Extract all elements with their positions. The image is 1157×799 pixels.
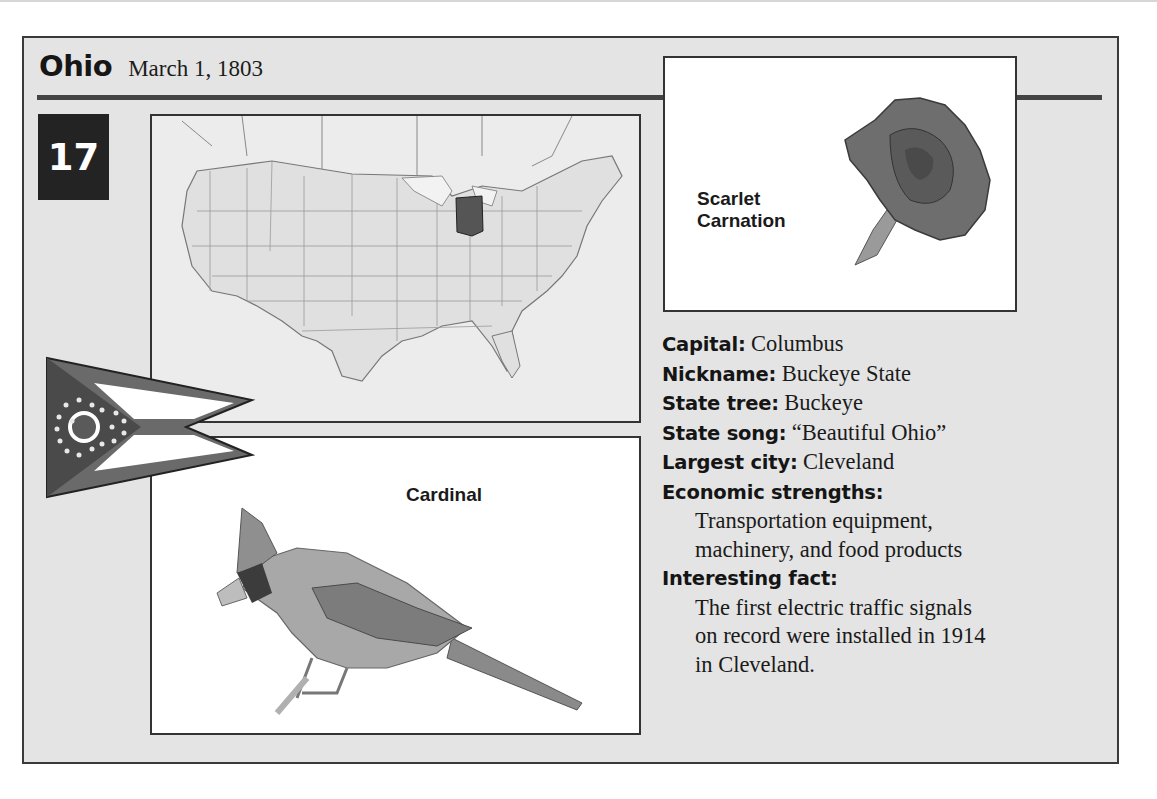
interesting-fact-line: on record were installed in 1914	[662, 622, 1102, 651]
state-flower-panel: Scarlet Carnation	[663, 56, 1017, 312]
fact-capital: Capital: Columbus	[662, 330, 1102, 360]
card-header: Ohio March 1, 1803	[39, 49, 263, 83]
fact-nickname: Nickname: Buckeye State	[662, 360, 1102, 390]
state-flower-caption: Scarlet Carnation	[697, 188, 786, 232]
interesting-fact-line: in Cleveland.	[662, 651, 1102, 680]
state-flag	[44, 355, 259, 500]
carnation-illustration	[815, 80, 1025, 280]
cardinal-illustration	[207, 498, 597, 718]
economic-strengths-line: machinery, and food products	[662, 536, 1102, 565]
ohio-burgee-flag-icon	[44, 355, 259, 500]
economic-strengths-line: Transportation equipment,	[662, 507, 1102, 536]
statehood-order-badge: 17	[38, 114, 109, 200]
page-top-rule	[0, 0, 1157, 2]
fact-largest-city: Largest city: Cleveland	[662, 448, 1102, 478]
state-name: Ohio	[39, 49, 112, 83]
fact-interesting: Interesting fact:	[662, 564, 1102, 594]
fact-state-song: State song: “Beautiful Ohio”	[662, 419, 1102, 449]
admission-date: March 1, 1803	[128, 56, 263, 82]
fact-state-tree: State tree: Buckeye	[662, 389, 1102, 419]
fact-economic-strengths: Economic strengths:	[662, 478, 1102, 508]
interesting-fact-line: The first electric traffic signals	[662, 594, 1102, 623]
state-facts-list: Capital: Columbus Nickname: Buckeye Stat…	[662, 330, 1102, 679]
